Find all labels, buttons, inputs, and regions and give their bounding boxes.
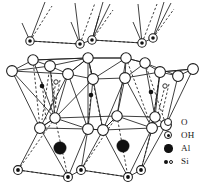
atom-o: [28, 55, 38, 65]
atom-o: [147, 123, 158, 134]
atom-o: [45, 61, 56, 72]
crystal-structure-figure: O OH Al Si: [0, 0, 209, 194]
atom-oh: [64, 173, 73, 182]
atom-o: [155, 67, 166, 78]
atom-oh: [137, 166, 146, 175]
atom-o: [7, 66, 18, 77]
aluminium-atoms: [54, 140, 129, 154]
atom-o: [150, 112, 160, 122]
atom-o: [83, 53, 93, 63]
legend-label-oh: OH: [181, 129, 194, 142]
atom-oh: [77, 166, 86, 175]
atom-si: [163, 84, 167, 88]
atom-oh: [138, 39, 146, 47]
legend: O OH Al Si: [161, 116, 207, 174]
hydroxyl-atoms-bottom: [14, 166, 146, 182]
atom-o: [120, 73, 131, 84]
legend-item-oh: OH: [161, 129, 207, 142]
oh-icon: [161, 129, 181, 142]
atom-o: [98, 125, 109, 136]
legend-item-al: Al: [161, 142, 207, 155]
atom-o: [121, 53, 131, 63]
legend-label-al: Al: [181, 142, 190, 155]
al-icon: [161, 142, 181, 155]
hydroxyl-atoms-top: [26, 34, 157, 48]
atom-al: [117, 140, 129, 152]
atom-o: [88, 74, 99, 85]
atom-o: [63, 69, 74, 80]
atom-si: [149, 90, 154, 95]
atom-oh: [124, 173, 133, 182]
atom-si: [54, 80, 58, 84]
atom-o: [173, 71, 184, 82]
atom-o: [83, 124, 94, 135]
atom-oh: [88, 36, 96, 44]
atom-al: [54, 142, 66, 154]
silicon-atoms: [40, 80, 168, 97]
legend-label-o: O: [181, 116, 188, 129]
atom-oh: [149, 34, 157, 42]
legend-item-si: Si: [161, 155, 207, 168]
o-icon: [161, 116, 181, 129]
atom-oh: [76, 40, 84, 48]
atom-o: [35, 123, 46, 134]
si-icon: [161, 155, 181, 168]
atom-oh: [26, 37, 34, 45]
oxygen-atoms-lower: [35, 111, 172, 136]
atom-si: [40, 84, 45, 89]
atom-oh: [14, 166, 23, 175]
atom-o: [188, 64, 199, 75]
legend-label-si: Si: [181, 155, 189, 168]
atom-o: [50, 113, 60, 123]
atom-o: [112, 111, 122, 121]
atom-o: [140, 58, 150, 68]
legend-item-o: O: [161, 116, 207, 129]
atom-si: [89, 93, 94, 98]
